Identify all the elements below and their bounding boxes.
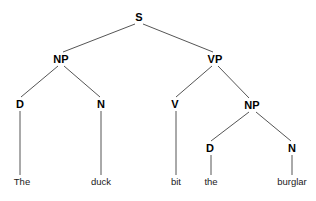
tree-node-n1: N	[97, 99, 105, 110]
tree-edge-np1-to-d1	[21, 66, 58, 97]
tree-node-d2: D	[206, 143, 214, 154]
tree-edge-np2-to-n2	[256, 112, 291, 141]
tree-edge-s-to-np1	[63, 24, 135, 52]
tree-node-np2: NP	[244, 100, 260, 111]
tree-edge-layer	[0, 0, 316, 201]
tree-leaf-leaf-the-2: the	[204, 177, 217, 187]
syntax-tree-figure: SNPVPDNVNPDN Theduckbittheburglar	[0, 0, 316, 201]
tree-edge-np1-to-n1	[64, 66, 100, 97]
tree-edge-vp-to-v	[176, 66, 212, 97]
tree-edge-np2-to-d2	[211, 112, 249, 141]
tree-leaf-leaf-burglar: burglar	[277, 177, 307, 187]
tree-leaf-leaf-bit: bit	[171, 177, 181, 187]
tree-node-np1: NP	[53, 54, 69, 65]
tree-leaf-leaf-duck: duck	[91, 177, 111, 187]
tree-leaf-leaf-the-1: The	[14, 177, 30, 187]
tree-node-vp: VP	[207, 54, 222, 65]
tree-node-s: S	[135, 12, 143, 23]
tree-node-v: V	[171, 99, 179, 110]
tree-node-d1: D	[16, 99, 24, 110]
tree-edge-s-to-vp	[143, 24, 213, 52]
tree-edge-vp-to-np2	[218, 66, 249, 98]
tree-node-n2: N	[288, 143, 296, 154]
